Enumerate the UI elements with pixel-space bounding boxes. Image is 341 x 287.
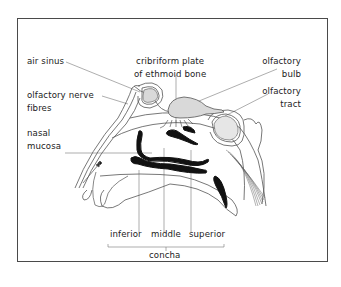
label-olfactory-tract-line2: tract	[262, 98, 301, 111]
label-cribriform-line1: cribriform plate	[134, 55, 206, 68]
label-olfactory-nerve-line2: fibres	[27, 102, 94, 115]
leader-lines	[65, 62, 277, 251]
label-olfactory-bulb: olfactory bulb	[262, 55, 301, 80]
label-olfactory-nerve-line1: olfactory nerve	[27, 89, 94, 102]
label-cribriform-line2: of ethmoid bone	[134, 68, 206, 81]
label-nasal-mucosa-line2: mucosa	[27, 140, 61, 153]
label-nasal-mucosa-line1: nasal	[27, 127, 61, 140]
label-olfactory-nerve-fibres: olfactory nerve fibres	[27, 89, 94, 114]
conchae	[99, 126, 227, 208]
label-olfactory-bulb-line2: bulb	[262, 68, 301, 81]
label-air-sinus: air sinus	[27, 55, 64, 68]
label-concha-superior: superior	[189, 228, 225, 241]
sphenoid-sinus	[214, 116, 238, 140]
label-concha-middle: middle	[151, 228, 181, 241]
label-olfactory-tract: olfactory tract	[262, 85, 301, 110]
fibre-fan	[226, 150, 265, 206]
label-nasal-mucosa: nasal mucosa	[27, 127, 61, 152]
palate-outline	[93, 172, 128, 207]
olfactory-bulb	[168, 97, 224, 118]
label-olfactory-bulb-line1: olfactory	[262, 55, 301, 68]
air-sinus	[143, 89, 158, 103]
label-cribriform-plate: cribriform plate of ethmoid bone	[134, 55, 206, 80]
label-concha-group: concha	[149, 249, 180, 262]
label-olfactory-tract-line1: olfactory	[262, 85, 301, 98]
label-concha-inferior: inferior	[110, 228, 142, 241]
